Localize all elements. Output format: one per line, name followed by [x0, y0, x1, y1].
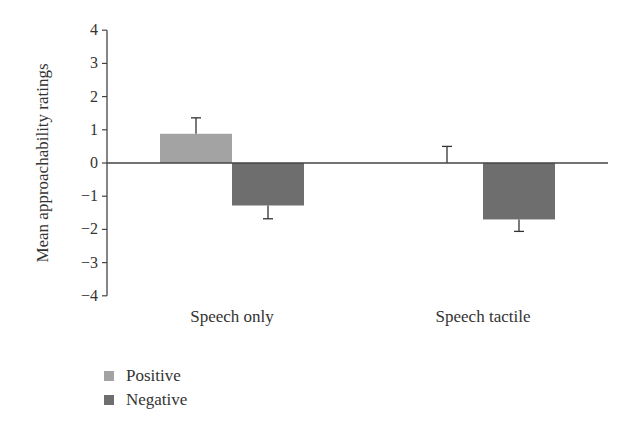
- y-tick-label: −4: [81, 287, 98, 304]
- y-tick-label: −2: [81, 220, 98, 237]
- y-tick-label: −1: [81, 187, 98, 204]
- y-tick-label: −3: [81, 254, 98, 271]
- bar-negative: [483, 163, 555, 219]
- y-tick-label: 2: [90, 88, 98, 105]
- bar-negative: [232, 163, 304, 205]
- legend-label-negative: Negative: [126, 390, 187, 410]
- legend-label-positive: Positive: [126, 366, 181, 386]
- y-axis-label: Mean approachability ratings: [33, 63, 52, 262]
- y-tick-label: 1: [90, 121, 98, 138]
- x-category-label: Speech tactile: [436, 307, 531, 326]
- legend-swatch-positive: [104, 371, 114, 381]
- bar-positive: [160, 134, 232, 163]
- legend-item-negative: Negative: [104, 388, 187, 412]
- y-tick-label: 3: [90, 54, 98, 71]
- y-tick-label: 0: [90, 154, 98, 171]
- y-tick-label: 4: [90, 21, 98, 38]
- bar-chart: 43210−1−2−3−4Mean approachability rating…: [0, 0, 633, 425]
- legend-item-positive: Positive: [104, 364, 187, 388]
- legend: Positive Negative: [104, 364, 187, 412]
- legend-swatch-negative: [104, 395, 114, 405]
- x-category-label: Speech only: [190, 307, 274, 326]
